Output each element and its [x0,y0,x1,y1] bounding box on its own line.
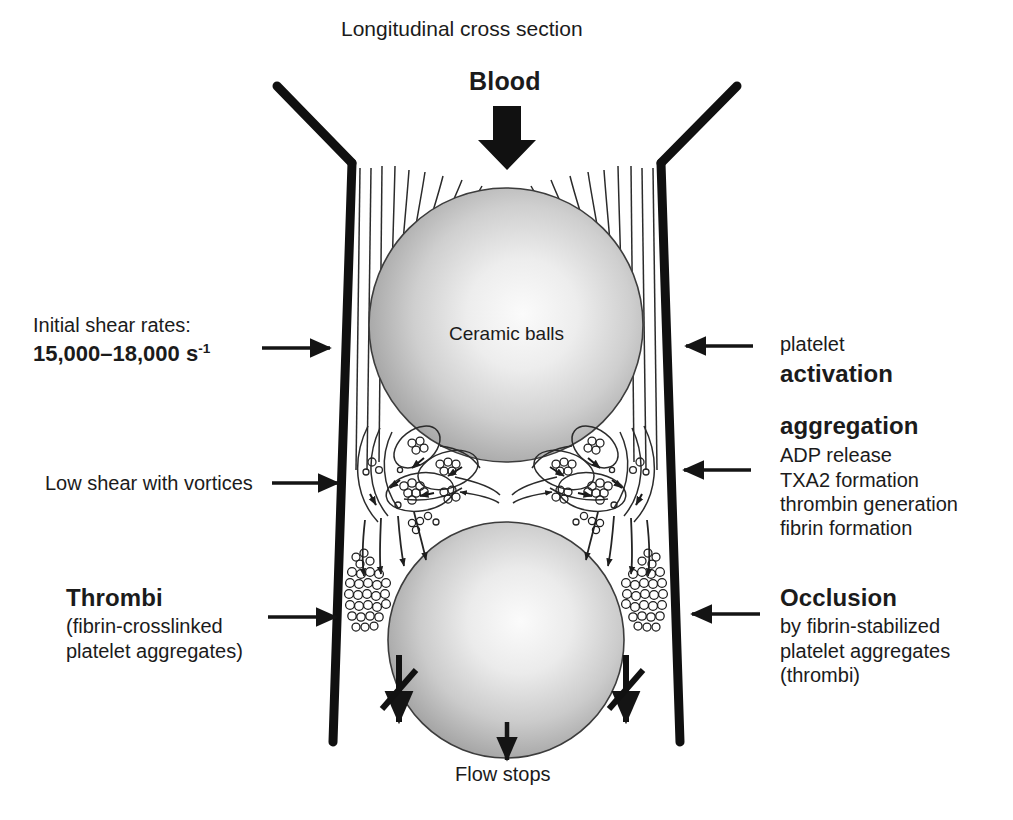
aggregation-line2: TXA2 formation [780,468,958,492]
thrombi-line2: platelet aggregates) [66,639,243,663]
shear-rates-line1: Initial shear rates: [33,313,210,337]
thrombi-heading: Thrombi [66,583,243,612]
blood-inlet-label: Blood [469,66,541,97]
vessel-wall-left [277,86,352,742]
platelet-activation-heading: activation [780,359,893,388]
shear-rates-value-main: 15,000–18,000 s [33,341,198,366]
thrombus-left [345,549,391,631]
annotation-low-shear-vortices: Low shear with vortices [45,471,253,495]
annotation-platelet-activation: platelet activation [780,332,893,389]
shear-rates-value: 15,000–18,000 s-1 [33,341,210,368]
occlusion-line3: (thrombi) [780,663,950,687]
aggregation-line4: fibrin formation [780,516,958,540]
ceramic-balls-label: Ceramic balls [449,322,564,345]
blood-inlet-arrow [478,106,536,170]
annotation-thrombi: Thrombi (fibrin-crosslinked platelet agg… [66,583,243,663]
thrombus-right [622,549,668,631]
annotation-aggregation: aggregation ADP release TXA2 formation t… [780,411,958,541]
occlusion-heading: Occlusion [780,583,950,612]
aggregation-line1: ADP release [780,443,958,467]
occlusion-line2: platelet aggregates [780,639,950,663]
diagram-canvas: Longitudinal cross section Blood Ceramic… [0,0,1013,820]
shear-rates-value-superscript: -1 [198,341,210,356]
annotation-shear-rates: Initial shear rates: 15,000–18,000 s-1 [33,313,210,368]
annotation-occlusion: Occlusion by fibrin-stabilized platelet … [780,583,950,687]
page-title: Longitudinal cross section [341,16,583,42]
aggregation-heading: aggregation [780,411,958,440]
central-jet-streamlines [455,477,557,503]
occlusion-line1: by fibrin-stabilized [780,614,950,638]
thrombi-line1: (fibrin-crosslinked [66,614,243,638]
vessel-wall-right [661,86,737,742]
platelet-line1: platelet [780,332,893,356]
aggregation-line3: thrombin generation [780,492,958,516]
vessel-illustration [0,0,1013,820]
flow-stops-label: Flow stops [455,762,551,786]
